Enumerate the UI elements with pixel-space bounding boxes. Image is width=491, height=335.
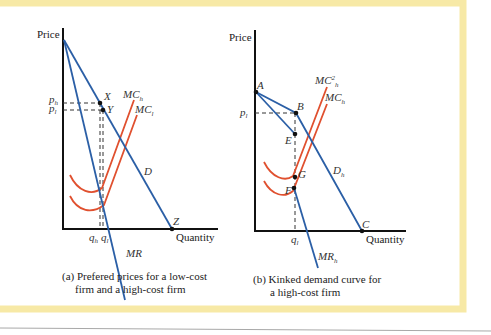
panel-a: Price Quantity X Y Z ph pl qh ql MCh MCl… [37,28,218,300]
panel-a-point-y [101,108,106,113]
panel-b-caption-line2: a high-cost firm [270,286,341,298]
panel-b-price-low-label: pl [239,106,248,120]
panel-a-caption-line2: firm and a high-cost firm [75,283,186,295]
panel-a-demand-label: D [143,165,152,177]
panel-a-point-z [170,227,175,232]
panel-a-mc-high-label: MCh [122,88,144,103]
panel-b-mc-high-label: MCh [324,91,346,106]
panel-b-mr-label: MRh [317,250,338,265]
bottom-rule [0,328,491,331]
panel-b-mc2-high-label: MC2h [314,74,339,89]
panel-b-point-c-label: C [362,218,370,230]
panel-b-point-e [293,132,298,137]
panel-a-mr-label: MR [125,247,142,259]
panel-b-x-axis-label: Quantity [366,233,405,245]
panel-b-point-f [292,186,297,191]
panel-a-quantity-high-label: qh [89,231,99,245]
panel-b-point-e-label: E [284,134,292,146]
panel-a-quantity-low-label: ql [101,231,109,245]
panel-a-point-x [98,101,103,106]
panel-a-caption-line1: (a) Prefered prices for a low-cost [62,270,207,283]
panel-a-y-axis-label: Price [37,28,60,40]
panel-a-x-axis-label: Quantity [176,231,215,243]
panel-a-point-y-label: Y [107,103,115,115]
panel-a-point-z-label: Z [173,215,180,227]
panel-b-quantity-low-label: ql [291,233,299,247]
panel-b-y-axis-label: Price [229,31,252,43]
panel-b-mr-lower-curve [294,188,318,268]
panel-b-point-a-label: A [256,79,264,91]
panel-b: Price Quantity A B E G F C pl ql MC2h MC… [229,30,406,298]
panel-b-point-f-label: F [284,184,292,196]
panel-b-demand-label: Dh [332,164,345,179]
panel-b-point-g [293,175,298,180]
panel-a-mr-curve [64,40,125,300]
figure: Price Quantity X Y Z ph pl qh ql MCh MCl… [0,0,491,335]
panel-b-point-g-label: G [298,168,306,180]
panel-a-demand-curve [64,40,172,229]
panel-a-point-x-label: X [103,90,112,102]
panel-b-mr-upper-curve [256,92,295,134]
panel-b-caption-line1: (b) Kinked demand curve for [253,273,382,286]
panel-b-dashed-guides [255,113,296,231]
panel-b-point-b-label: B [297,100,304,112]
